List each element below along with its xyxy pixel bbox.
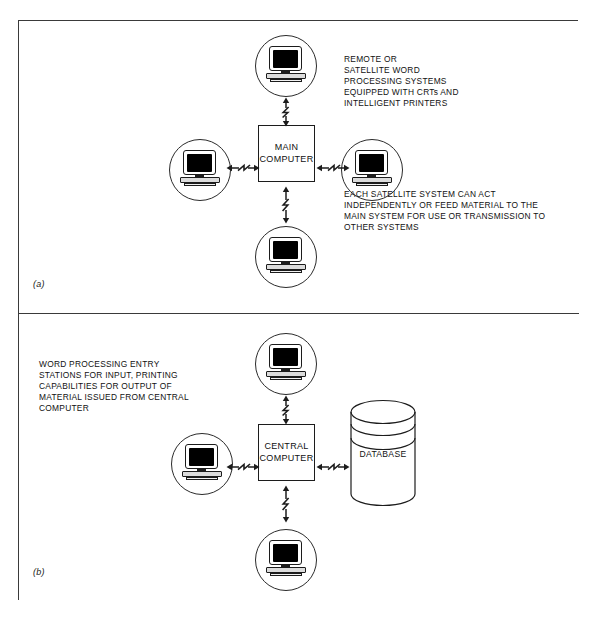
panel-b-right-link (316, 459, 350, 475)
panel-a-note-satellite-systems: REMOTE OR SATELLITE WORD PROCESSING SYST… (344, 54, 559, 109)
panel-b-bottom-terminal (255, 529, 317, 591)
keyboard-front (270, 377, 302, 381)
keyboard-front (270, 79, 302, 83)
monitor-screen (273, 348, 298, 366)
panel-a-label: (a) (33, 279, 45, 289)
panel-b-central-computer-box: CENTRAL COMPUTER (258, 424, 315, 481)
panel-a-main-computer-box: MAIN COMPUTER (258, 125, 315, 182)
monitor-screen (187, 154, 212, 172)
main-computer-label: MAIN COMPUTER (259, 142, 314, 165)
keyboard-front (356, 183, 388, 187)
database-label: DATABASE (349, 449, 417, 459)
panel-a-note-independent-operation: EACH SATELLITE SYSTEM CAN ACT INDEPENDEN… (344, 189, 574, 233)
keyboard-front (186, 477, 218, 481)
panel-b-top-terminal (255, 333, 317, 395)
panel-a-left-terminal (169, 139, 231, 201)
crt-terminal-icon (266, 540, 306, 578)
keyboard-front (270, 573, 302, 577)
panel-b-left-terminal (171, 433, 233, 495)
monitor-screen (273, 50, 298, 68)
monitor-bezel (269, 237, 302, 262)
crt-terminal-icon (182, 444, 222, 482)
panel-a-top-link (278, 97, 294, 127)
panel-b-bottom-link (278, 485, 294, 523)
crt-terminal-icon (180, 150, 220, 188)
crt-terminal-icon (266, 46, 306, 84)
monitor-screen (359, 154, 384, 172)
panel-a: MAIN COMPUTER (19, 21, 579, 313)
crt-terminal-icon (352, 150, 392, 188)
monitor-bezel (269, 46, 302, 71)
monitor-bezel (185, 444, 218, 469)
panel-b-database-cylinder: DATABASE (349, 399, 417, 507)
panel-b-top-link (278, 395, 294, 425)
monitor-screen (273, 544, 298, 562)
keyboard-front (270, 270, 302, 274)
panel-b-note-entry-stations: WORD PROCESSING ENTRY STATIONS FOR INPUT… (39, 359, 254, 414)
crt-terminal-icon (266, 237, 306, 275)
monitor-bezel (269, 540, 302, 565)
panel-b: CENTRAL COMPUTER DATABASE (19, 313, 579, 601)
monitor-bezel (269, 344, 302, 369)
panel-a-bottom-link (278, 186, 294, 224)
panel-b-label: (b) (33, 567, 45, 577)
monitor-screen (273, 241, 298, 259)
crt-terminal-icon (266, 344, 306, 382)
keyboard-front (184, 183, 216, 187)
panel-a-right-link (316, 160, 350, 176)
monitor-screen (189, 448, 214, 466)
panel-b-left-link (226, 459, 260, 475)
panel-a-top-terminal (255, 35, 317, 97)
monitor-bezel (355, 150, 388, 175)
panel-a-bottom-terminal (255, 226, 317, 288)
figure-frame: MAIN COMPUTER (18, 20, 578, 600)
central-computer-label: CENTRAL COMPUTER (259, 441, 314, 464)
monitor-bezel (183, 150, 216, 175)
panel-a-left-link (226, 160, 260, 176)
